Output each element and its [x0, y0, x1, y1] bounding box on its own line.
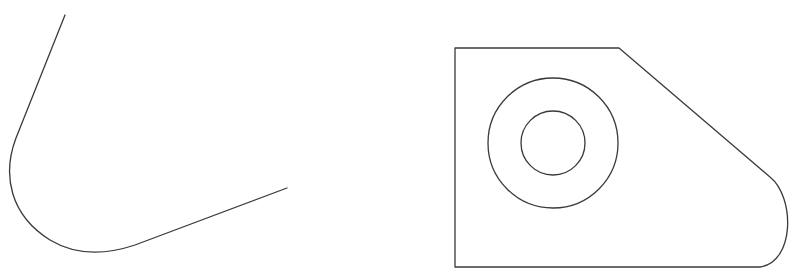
right-figure	[455, 48, 788, 267]
diagram-canvas	[0, 0, 794, 277]
outer-circle	[488, 78, 618, 208]
right-figure-outline	[455, 48, 788, 267]
inner-circle	[521, 111, 585, 175]
left-figure-profile	[10, 15, 287, 252]
